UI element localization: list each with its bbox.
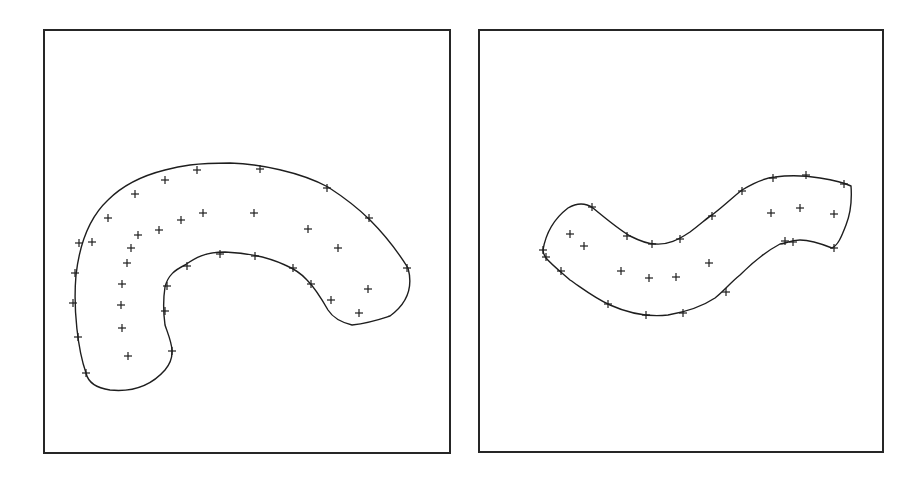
- right-panel-frame: [478, 29, 884, 453]
- left-panel-frame: [43, 29, 451, 454]
